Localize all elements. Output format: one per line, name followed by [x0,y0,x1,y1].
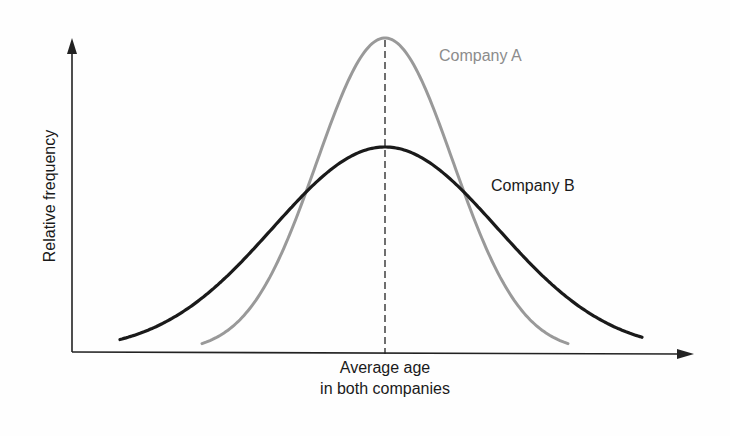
y-axis-arrow-icon [67,38,77,54]
x-axis-label-line2: in both companies [320,378,450,399]
x-axis-label-line1: Average age [320,357,450,378]
x-axis-label: Average age in both companies [320,357,450,399]
company-b-curve [120,147,642,340]
y-axis-label: Relative frequency [41,130,59,263]
distribution-chart: Relative frequency Company A Company B A… [0,0,730,436]
x-axis [72,352,680,354]
x-axis-arrow-icon [677,349,694,359]
company-b-label: Company B [491,177,575,195]
company-a-label: Company A [439,47,522,65]
